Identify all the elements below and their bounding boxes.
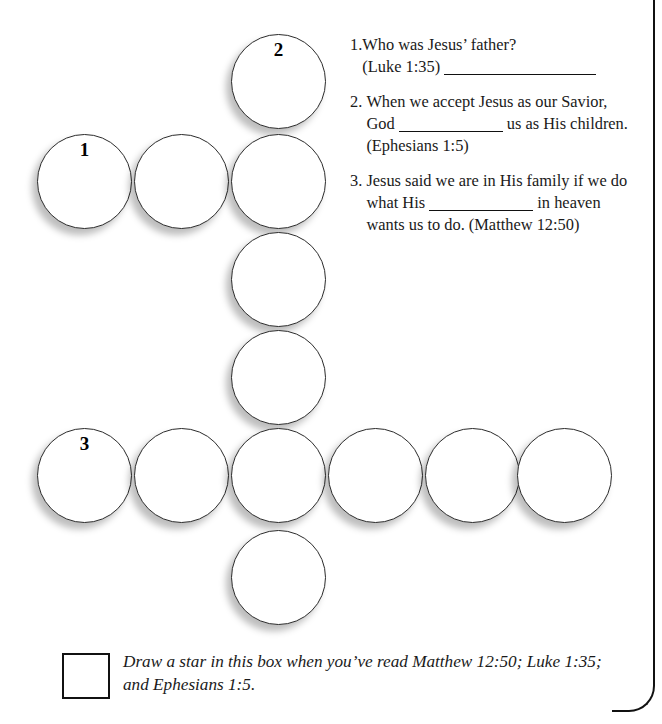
puzzle-circle[interactable]: 1 [37,134,132,229]
question-number: 2. [350,91,366,113]
puzzle-circle[interactable] [134,428,229,523]
question-number: 3. [350,170,366,192]
answer-blank[interactable] [399,131,503,132]
puzzle-circle[interactable] [134,134,229,229]
footer-instruction-text: Draw a star in this box when you’ve read… [123,650,622,697]
puzzle-circle[interactable] [517,428,612,523]
circle-number-label: 2 [232,40,325,59]
question-text: Jesus said we are in His family if we do… [366,170,630,236]
question-item: 2. When we accept Jesus as our Savior, G… [350,91,630,157]
puzzle-circle[interactable] [231,330,326,425]
puzzle-circle[interactable] [425,428,520,523]
answer-blank[interactable] [429,210,533,211]
answer-blank[interactable] [444,74,596,75]
puzzle-circle[interactable]: 2 [231,34,326,129]
question-item: 3. Jesus said we are in His family if we… [350,170,630,236]
question-text: When we accept Jesus as our Savior, God … [366,91,630,157]
question-item: 1.Who was Jesus’ father?(Luke 1:35) [350,34,630,78]
puzzle-circle[interactable]: 3 [37,428,132,523]
footer-note: Draw a star in this box when you’ve read… [62,650,622,699]
puzzle-circle[interactable] [328,428,423,523]
puzzle-circle[interactable] [231,232,326,327]
question-list: 1.Who was Jesus’ father?(Luke 1:35) 2. W… [350,34,630,250]
puzzle-circle[interactable] [231,428,326,523]
puzzle-circle[interactable] [231,530,326,625]
puzzle-circle[interactable] [231,134,326,229]
star-checkbox[interactable] [62,653,110,699]
circle-number-label: 1 [38,140,131,159]
question-text: Who was Jesus’ father?(Luke 1:35) [362,34,630,78]
question-number: 1. [350,34,362,56]
circle-number-label: 3 [38,434,131,453]
